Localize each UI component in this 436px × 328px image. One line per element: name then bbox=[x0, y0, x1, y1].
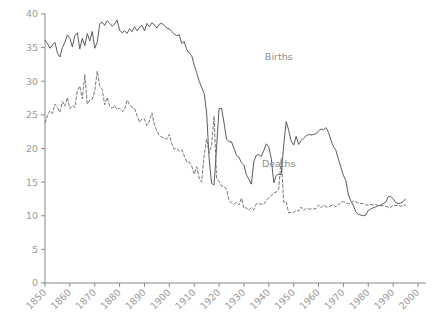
x-tick-label: 1950 bbox=[272, 287, 297, 312]
x-tick-label: 1920 bbox=[198, 287, 223, 312]
x-tick-label: 1990 bbox=[372, 287, 397, 312]
x-tick-label: 1900 bbox=[148, 287, 173, 312]
y-tick-label: 20 bbox=[26, 143, 38, 154]
y-tick-label: 5 bbox=[32, 244, 38, 255]
x-tick-label: 1960 bbox=[297, 287, 322, 312]
y-tick-label: 15 bbox=[26, 177, 38, 188]
series-line-births bbox=[45, 20, 406, 216]
y-tick-label: 30 bbox=[26, 76, 38, 87]
x-tick-label: 1880 bbox=[98, 287, 123, 312]
x-tick-label: 1890 bbox=[123, 287, 148, 312]
line-chart: 0510152025303540 18501860187018801890190… bbox=[0, 0, 436, 328]
y-tick-label: 35 bbox=[26, 42, 38, 53]
series-line-deaths bbox=[45, 71, 406, 213]
x-tick-label: 1940 bbox=[247, 287, 272, 312]
x-tick-label: 2000 bbox=[397, 287, 422, 312]
y-tick-label: 40 bbox=[26, 8, 38, 19]
y-tick-label: 25 bbox=[26, 109, 38, 120]
data-series-group bbox=[45, 20, 406, 216]
y-axis: 0510152025303540 bbox=[26, 8, 45, 288]
series-annotations: BirthsDeaths bbox=[262, 51, 296, 169]
series-label-deaths: Deaths bbox=[262, 158, 296, 169]
y-tick-label: 10 bbox=[26, 210, 38, 221]
x-tick-label: 1850 bbox=[24, 287, 49, 312]
x-axis: 1850186018701880189019001910192019301940… bbox=[24, 283, 426, 312]
x-tick-label: 1930 bbox=[222, 287, 247, 312]
x-tick-label: 1980 bbox=[347, 287, 372, 312]
y-tick-label: 0 bbox=[32, 277, 38, 288]
x-tick-label: 1870 bbox=[73, 287, 98, 312]
chart-container: 0510152025303540 18501860187018801890190… bbox=[0, 0, 436, 328]
x-tick-label: 1860 bbox=[48, 287, 73, 312]
series-label-births: Births bbox=[265, 51, 293, 62]
x-tick-label: 1910 bbox=[173, 287, 198, 312]
x-tick-label: 1970 bbox=[322, 287, 347, 312]
